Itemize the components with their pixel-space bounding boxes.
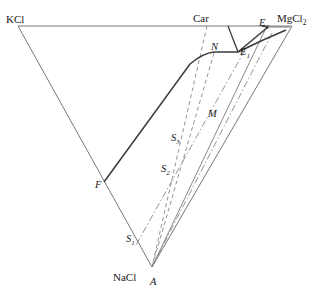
point-label-f: F [95,180,101,191]
apex-rays [152,30,265,267]
vertex-label-mgcl2: MgCl2 [277,13,306,27]
vertex-label-kcl: KCl [6,14,24,25]
boundary-f-to-n [104,52,214,182]
dashdot-line-mgcl2-a [152,33,272,267]
vertex-label-nacl: NaCl [113,272,136,283]
point-label-e1: E1 [240,47,250,60]
dashdot-line-e1-s1 [136,50,245,245]
dashed-line-car-a [152,26,207,267]
ray-a-e2 [152,30,265,267]
point-label-a: A [150,277,156,288]
point-label-e2: E2 [259,18,269,31]
point-label-n: N [211,42,218,53]
boundary-topedge-to-e1 [228,26,238,52]
edge-kcl-nacl [18,26,152,267]
point-label-car: Car [193,13,209,24]
dashed-construction-lines [152,26,214,267]
phase-boundary-curves [104,26,290,182]
point-label-s2: S2 [161,164,170,177]
point-label-s3: S3 [171,133,180,146]
ternary-phase-diagram: KCl MgCl2 NaCl Car E2 E1 N M S3 S2 S1 F … [0,0,319,296]
triangle-outline [18,26,292,267]
dashdot-lines [136,33,272,267]
point-label-m: M [208,109,217,120]
phase-diagram-canvas [0,0,319,296]
point-label-s1: S1 [126,234,135,247]
edge-mgcl2-nacl [152,26,292,267]
